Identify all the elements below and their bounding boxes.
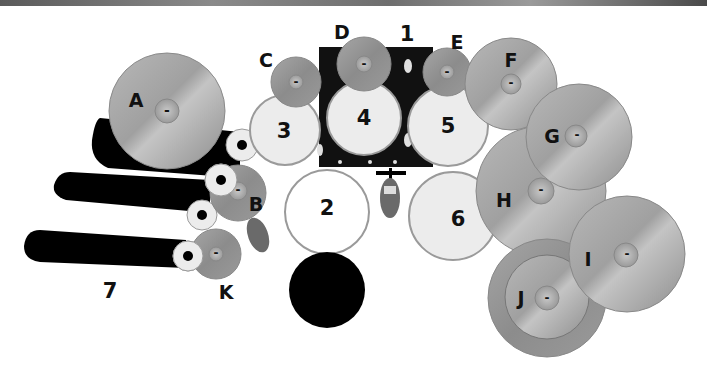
cymbal-label-C: C bbox=[259, 51, 273, 70]
drum-label-4: 4 bbox=[357, 108, 372, 129]
cymbal-label-G: G bbox=[544, 127, 560, 146]
cymbal-label-A: A bbox=[129, 91, 144, 110]
drum-throne bbox=[289, 252, 365, 328]
bell-mark-E: - bbox=[445, 66, 450, 78]
bell-mark-I: - bbox=[625, 248, 630, 260]
bell-mark-H: - bbox=[539, 184, 544, 196]
hihat-pedal bbox=[242, 215, 273, 256]
cymbal-label-B: B bbox=[249, 195, 263, 214]
cymbal-label-I: I bbox=[584, 250, 591, 269]
tube-tom-head-lower bbox=[173, 241, 203, 271]
drum-label-5: 5 bbox=[441, 116, 456, 137]
drum-label-1: 1 bbox=[400, 24, 415, 45]
drum-label-7: 7 bbox=[103, 281, 118, 302]
cymbal-label-K: K bbox=[219, 283, 234, 302]
tube-tom-head-mid bbox=[205, 164, 237, 196]
drum-label-6: 6 bbox=[451, 209, 466, 230]
bell-mark-D: - bbox=[362, 58, 367, 70]
drum-label-2: 2 bbox=[320, 198, 335, 219]
bell-mark-K: - bbox=[214, 247, 219, 259]
bell-mark-G: - bbox=[575, 129, 580, 141]
cymbal-label-E: E bbox=[451, 33, 464, 52]
cymbal-label-F: F bbox=[505, 51, 518, 70]
bell-mark-J: - bbox=[545, 292, 550, 304]
cymbal-label-J: J bbox=[517, 289, 524, 308]
bell-mark-C: - bbox=[294, 76, 299, 88]
bass-drum-pedal bbox=[376, 168, 406, 218]
cymbal-label-D: D bbox=[334, 23, 350, 42]
bell-mark-B: - bbox=[236, 184, 241, 196]
tube-tom-lower bbox=[24, 230, 186, 268]
bell-mark-F: - bbox=[509, 77, 514, 89]
drum-kit-diagram bbox=[0, 0, 707, 372]
tube-tom-middle bbox=[54, 172, 210, 212]
drum-label-3: 3 bbox=[277, 121, 292, 142]
cymbal-label-H: H bbox=[496, 191, 512, 210]
bell-mark-A: - bbox=[164, 103, 170, 117]
